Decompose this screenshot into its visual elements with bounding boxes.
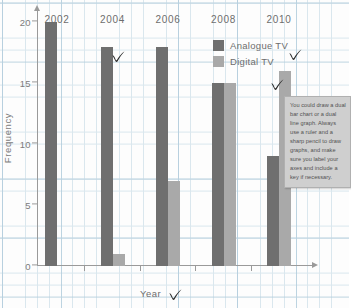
y-axis <box>37 10 38 266</box>
bar-2010-analogue <box>267 156 279 266</box>
legend-label-analogue: Analogue TV <box>230 40 288 51</box>
bar-group-2002 <box>45 22 57 266</box>
x-tick-label-2008: 2008 <box>211 14 236 25</box>
y-tick-label: 15 <box>20 78 31 89</box>
y-tick-mark <box>32 20 38 21</box>
legend-item-analogue: Analogue TV <box>213 40 288 51</box>
checkmark-2010-bar-icon <box>270 78 285 91</box>
y-tick-mark <box>32 142 38 143</box>
y-tick-label: 10 <box>20 139 31 150</box>
x-tick-label-2004: 2004 <box>100 14 125 25</box>
x-tick-mark <box>195 266 196 271</box>
y-axis-label: Frequency <box>2 113 13 163</box>
hint-note-box: You could draw a dual bar chart or a dua… <box>284 96 351 188</box>
y-tick-label: 5 <box>25 200 31 211</box>
legend: Analogue TV Digital TV <box>213 40 288 67</box>
bar-2004-analogue <box>101 47 113 266</box>
x-tick-label-2010: 2010 <box>266 14 291 25</box>
y-tick-mark <box>32 264 38 265</box>
legend-swatch-digital-icon <box>213 56 224 67</box>
bar-2008-digital <box>224 83 236 266</box>
bar-group-2006 <box>156 47 180 266</box>
legend-item-digital: Digital TV <box>213 56 288 67</box>
bar-group-2008 <box>212 83 236 266</box>
y-tick-label: 20 <box>20 17 31 28</box>
bar-2008-analogue <box>212 83 224 266</box>
checkmark-legend-icon <box>288 48 303 61</box>
y-tick-label: 0 <box>25 261 31 272</box>
x-tick-mark <box>84 266 85 271</box>
legend-label-digital: Digital TV <box>230 56 274 67</box>
x-tick-mark <box>140 266 141 271</box>
bar-2002-analogue <box>45 22 57 266</box>
x-tick-label-2002: 2002 <box>44 14 69 25</box>
y-tick-mark <box>32 203 38 204</box>
legend-swatch-analogue-icon <box>213 40 224 51</box>
bar-2006-digital <box>168 181 180 266</box>
checkmark-year-label-icon <box>168 288 183 301</box>
y-tick-mark <box>32 81 38 82</box>
x-tick-mark <box>251 266 252 271</box>
x-axis-label: Year <box>140 288 161 299</box>
bar-2004-digital <box>113 254 125 266</box>
bar-group-2004 <box>101 47 125 266</box>
bar-2006-analogue <box>156 47 168 266</box>
x-tick-label-2006: 2006 <box>155 14 180 25</box>
checkmark-2004-bar-icon <box>111 50 126 63</box>
